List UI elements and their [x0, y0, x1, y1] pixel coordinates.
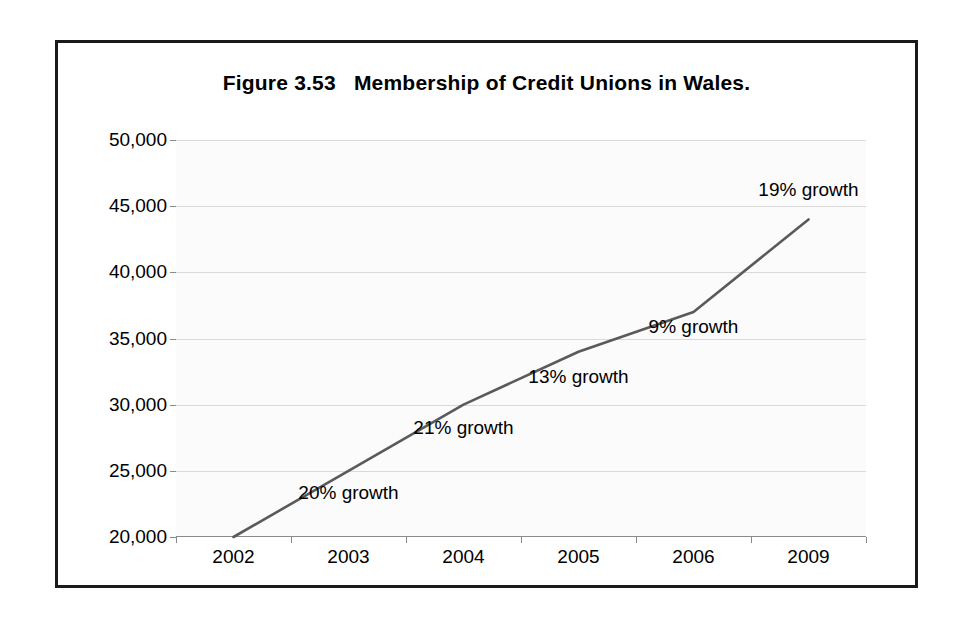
growth-2002-2004: 20% growth — [298, 482, 398, 504]
y-axis-tick-label: 25,000 — [109, 460, 167, 482]
plot-area: 50,00045,00040,00035,00030,00025,00020,0… — [176, 140, 866, 537]
x-axis-tick — [406, 537, 407, 543]
y-axis-tick-label: 20,000 — [109, 526, 167, 548]
x-axis-tick-label: 2009 — [787, 546, 829, 568]
x-axis-tick-label: 2002 — [212, 546, 254, 568]
x-axis-tick-label: 2006 — [672, 546, 714, 568]
y-axis-tick-label: 40,000 — [109, 261, 167, 283]
x-axis-tick-label: 2004 — [442, 546, 484, 568]
y-axis-tick-label: 50,000 — [109, 129, 167, 151]
growth-2006: 9% growth — [649, 316, 739, 338]
growth-2005: 13% growth — [528, 366, 628, 388]
x-axis-tick — [176, 537, 177, 543]
x-axis-tick-label: 2005 — [557, 546, 599, 568]
page-title: Figure 3.53 Membership of Credit Unions … — [58, 71, 915, 95]
growth-2009: 19% growth — [758, 179, 858, 201]
x-axis-tick — [866, 537, 867, 543]
y-axis-tick-label: 35,000 — [109, 328, 167, 350]
x-axis-tick — [751, 537, 752, 543]
x-axis-tick — [291, 537, 292, 543]
x-axis-tick — [636, 537, 637, 543]
y-axis-tick-label: 30,000 — [109, 394, 167, 416]
x-axis-tick-label: 2003 — [327, 546, 369, 568]
growth-2004: 21% growth — [413, 417, 513, 439]
y-axis-tick-label: 45,000 — [109, 195, 167, 217]
x-axis-tick — [521, 537, 522, 543]
figure-frame: Figure 3.53 Membership of Credit Unions … — [55, 40, 918, 588]
